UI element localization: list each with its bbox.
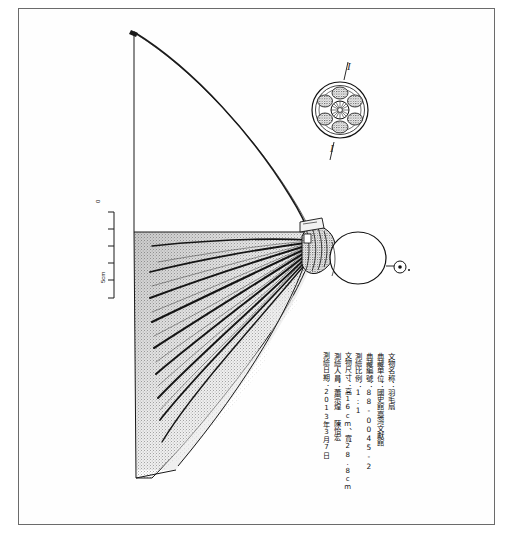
record-line-name: 文物名称：羽毛扇 bbox=[386, 352, 394, 410]
scale-bar-graphic bbox=[108, 212, 114, 298]
handle-knob bbox=[330, 232, 386, 284]
section-mark-top: I bbox=[347, 60, 351, 72]
drawing-canvas bbox=[0, 0, 515, 545]
scale-bar-zero-label: 0 bbox=[95, 200, 101, 203]
record-block: 文物名称：羽毛扇 典藏单位：國史館臺灣文獻館 典藏編號：88-0045-2 測繪… bbox=[322, 352, 394, 440]
record-line-drafter: 測繪人員：蕭宗煌 陳怡宏 bbox=[332, 352, 340, 440]
record-line-scale: 測繪比例：1:1 bbox=[354, 352, 362, 416]
rosette-medallion-detail bbox=[312, 82, 368, 138]
record-line-institute: 典藏单位：國史館臺灣文獻館 bbox=[375, 352, 383, 446]
record-line-number: 典藏編號：88-0045-2 bbox=[365, 352, 373, 471]
record-line-size: 文物尺寸：高16cm、寬28.8cm bbox=[343, 352, 350, 492]
record-line-date: 測繪日期：2013年3月7日 bbox=[322, 352, 329, 459]
terminal-bead bbox=[386, 261, 410, 273]
fan-shaft bbox=[129, 30, 312, 236]
artifact-drawing-page: 0 5cm I I 文物名称：羽毛扇 典藏单位：國史館臺灣文獻館 典藏編號：88… bbox=[0, 0, 515, 545]
section-mark-bottom: I bbox=[330, 142, 334, 154]
ferrule-hub bbox=[300, 218, 335, 274]
scale-bar-max-label: 5cm bbox=[100, 272, 106, 283]
